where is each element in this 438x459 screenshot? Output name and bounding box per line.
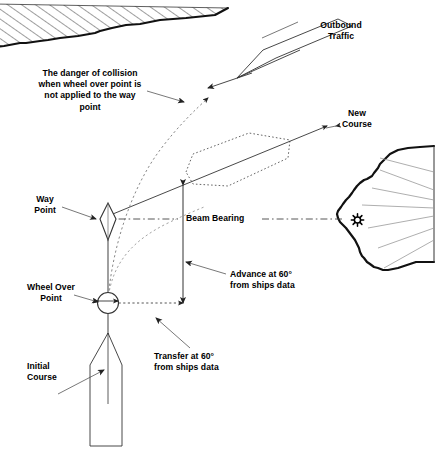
danger-turn-curve xyxy=(108,98,208,300)
new-course-ship-outline xyxy=(186,133,290,186)
headland-coastline xyxy=(337,146,434,270)
way-point-label: Way Point xyxy=(24,194,66,216)
new-course-line xyxy=(108,126,327,216)
advance-label: Advance at 60° from ships data xyxy=(230,269,340,291)
wheel-over-point-symbol xyxy=(98,293,119,314)
navigation-diagram: The danger of collision when wheel over … xyxy=(0,0,438,459)
way-point-symbol xyxy=(100,203,116,240)
outbound-traffic-leader xyxy=(262,22,298,38)
initial-course-label: Initial Course xyxy=(27,361,87,383)
hatched-shoal-area xyxy=(0,4,228,47)
outbound-traffic-direction-arrow xyxy=(208,73,252,88)
outbound-traffic-label: Outbound Traffic xyxy=(304,20,378,42)
new-course-label: New Course xyxy=(328,108,386,130)
wheel-over-point-label: Wheel Over Point xyxy=(18,282,84,304)
danger-note-label: The danger of collision when wheel over … xyxy=(22,68,158,113)
transfer-label: Transfer at 60° from ships data xyxy=(154,351,264,373)
own-ship-outline xyxy=(90,333,122,446)
beam-bearing-label: Beam Bearing xyxy=(186,213,262,224)
